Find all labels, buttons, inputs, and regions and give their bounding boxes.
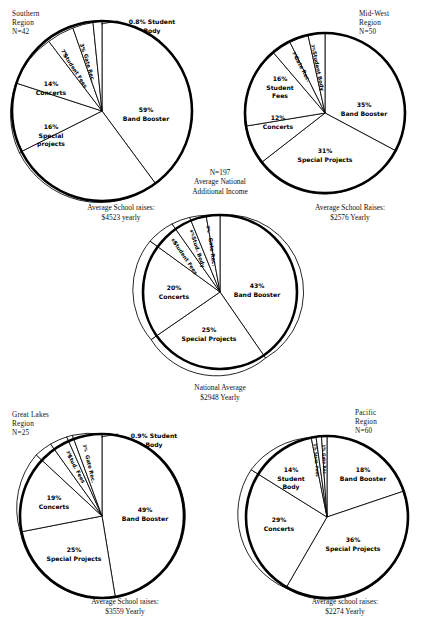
pie-chart-greatlakes: 49%Band Booster 25%Special Projects 19%C…	[2, 418, 212, 598]
caption-pacific-line1: Average school raises:	[275, 597, 415, 607]
pie-svg-national: 43%Band Booster 25%Special Projects 20%C…	[124, 206, 319, 386]
national-sample-size: N=197	[150, 168, 290, 177]
national-title-line2: Additional Income	[150, 187, 290, 196]
caption-pacific-line2: $2274 Yearly	[275, 607, 415, 617]
caption-pacific: Average school raises: $2274 Yearly	[275, 597, 415, 616]
caption-greatlakes-line2: $3559 Yearly	[55, 607, 195, 617]
region-name-line1: Mid-West	[359, 10, 389, 19]
caption-greatlakes-line1: Average School raises:	[55, 597, 195, 607]
pie-chart-national: 43%Band Booster 25%Special Projects 20%C…	[124, 206, 319, 386]
pie-svg-greatlakes: 49%Band Booster 25%Special Projects 19%C…	[2, 418, 212, 598]
national-title-line1: Average National	[150, 177, 290, 186]
caption-national: National Average $2948 Yearly	[150, 383, 290, 402]
caption-national-line1: National Average	[150, 383, 290, 393]
figure-page: Southern Region N=42 59%Band Booster 16%…	[0, 0, 431, 635]
region-name-line1: Pacific	[355, 409, 377, 418]
pie-chart-pacific: 18%Band Booster 36%Special Projects 29%C…	[235, 422, 431, 602]
caption-national-line2: $2948 Yearly	[150, 393, 290, 403]
center-heading-national: N=197 Average National Additional Income	[150, 168, 290, 196]
caption-greatlakes: Average School raises: $3559 Yearly	[55, 597, 195, 616]
pie-svg-pacific: 18%Band Booster 36%Special Projects 29%C…	[235, 422, 431, 602]
